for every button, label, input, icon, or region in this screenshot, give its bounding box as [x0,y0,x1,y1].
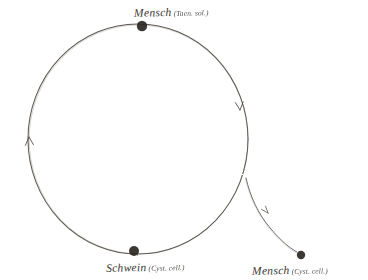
mensch-taenia-label: Mensch(Taen. sol.) [134,2,209,20]
mensch-cysticercus-label-main: Mensch [252,264,290,277]
mensch-cysticercus-node [297,251,305,259]
branch-path-to-human [246,178,297,252]
mensch-taenia-label-paren: (Taen. sol.) [174,8,209,18]
life-cycle-diagram [0,0,368,280]
branch-path-secondpass [245,179,296,253]
schwein-cysticercus-label-main: Schwein [106,261,147,274]
figure-canvas: Mensch(Taen. sol.) Schwein(Cyst. cell.) … [0,0,368,280]
schwein-cysticercus-label: Schwein(Cyst. cell.) [106,257,185,275]
mensch-taenia-label-main: Mensch [134,6,172,19]
schwein-cysticercus-label-paren: (Cyst. cell.) [148,263,184,273]
mensch-taenia-node [137,21,147,31]
mensch-cysticercus-label: Mensch(Cyst. cell.) [252,260,328,277]
mensch-cysticercus-label-paren: (Cyst. cell.) [292,266,328,276]
life-cycle-circle-secondpass [29,25,248,254]
schwein-cysticercus-node [129,246,139,256]
arrowhead-branch-descending [261,206,268,213]
